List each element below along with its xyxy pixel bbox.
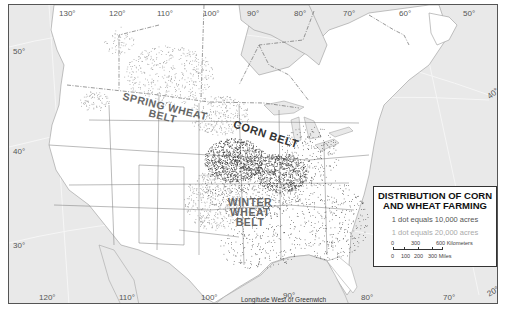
scale-mi-100: 100: [401, 253, 410, 259]
lon-bottom-100: 100°: [201, 293, 218, 302]
lon-bottom-80: 80°: [361, 293, 373, 302]
legend-box: DISTRIBUTION OF CORN AND WHEAT FARMING 1…: [373, 186, 497, 267]
lon-top-60: 60°: [399, 9, 411, 18]
lat-left-40: 40°: [13, 147, 25, 156]
lon-top-110: 110°: [157, 9, 173, 18]
scale-mi-0: 0: [391, 253, 394, 259]
winter-wheat-line3: BELT: [225, 217, 275, 227]
lon-top-120: 120°: [109, 9, 126, 18]
lon-top-90: 90°: [247, 9, 259, 18]
lon-top-70: 70°: [343, 9, 355, 18]
lon-top-100: 100°: [203, 9, 220, 18]
lat-left-50: 50°: [13, 47, 25, 56]
lat-left-30: 30°: [13, 241, 25, 250]
scale-bar: 0 300 600 Kilometers 0 100 200 300 Miles: [374, 240, 496, 262]
scale-km-0: 0: [391, 240, 394, 246]
scale-km-300: 300: [411, 240, 420, 246]
legend-wheat-dot: 1 dot equals 20,000 acres: [374, 228, 496, 237]
lon-top-80: 80°: [294, 9, 306, 18]
scale-km-600: 600 Kilometers: [436, 240, 473, 246]
scale-mi-200: 200: [414, 253, 423, 259]
lon-bottom-120: 120°: [39, 293, 56, 302]
scale-mi-300: 300 Miles: [428, 253, 452, 259]
winter-wheat-belt-label: WINTER WHEAT BELT: [225, 197, 275, 227]
legend-title-line2: AND WHEAT FARMING: [374, 201, 496, 211]
lon-bottom-70: 70°: [443, 293, 455, 302]
lon-top-50: 50°: [463, 9, 475, 18]
lon-bottom-110: 110°: [119, 293, 135, 302]
longitude-footer: Longitude West of Greenwich: [241, 296, 326, 303]
legend-corn-dot: 1 dot equals 10,000 acres: [374, 215, 496, 224]
lon-top-130: 130°: [59, 9, 76, 18]
